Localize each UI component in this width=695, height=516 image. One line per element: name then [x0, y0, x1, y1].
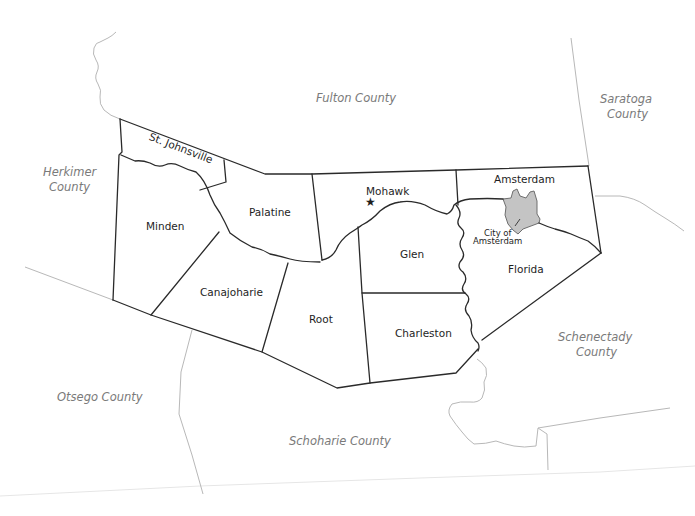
town-label-root: Root [309, 313, 333, 325]
minden-canajoharie-border [151, 232, 219, 315]
county-label-schenectady-1: Schenectady [558, 330, 633, 344]
county-label-schoharie: Schoharie County [289, 434, 391, 448]
schoharie-schenectady-border [449, 359, 548, 470]
fulton-saratoga-border [571, 38, 589, 166]
town-borders [113, 119, 601, 388]
star-icon: ★ [365, 195, 376, 209]
town-label-charleston: Charleston [395, 327, 452, 339]
county-label-schenectady-2: County [576, 345, 617, 359]
town-label-glen: Glen [400, 248, 424, 260]
herkimer-otsego-border [25, 267, 113, 300]
county-labels: Fulton County Saratoga County Herkimer C… [43, 91, 652, 448]
east-border [588, 166, 601, 253]
county-label-otsego: Otsego County [57, 390, 143, 404]
fulton-herkimer-border [93, 32, 120, 119]
schenectady-southeast-border [538, 408, 670, 428]
county-label-fulton: Fulton County [316, 91, 396, 105]
county-label-saratoga-2: County [607, 107, 648, 121]
schoharie-creek [456, 205, 479, 351]
town-label-palatine: Palatine [249, 206, 291, 218]
saratoga-schenectady-border [595, 196, 684, 231]
town-label-st-johnsville: St. Johnsville [148, 130, 215, 165]
town-label-minden: Minden [146, 220, 184, 232]
county-label-herkimer-1: Herkimer [43, 165, 98, 179]
canajoharie-root-border [262, 263, 288, 352]
otsego-schoharie-border [179, 330, 203, 494]
south-border [113, 300, 478, 388]
palatine-mohawk-border [312, 174, 322, 260]
mohawk-amsterdam-border [456, 170, 458, 205]
county-label-saratoga-1: Saratoga [600, 92, 652, 106]
county-map: St. Johnsville Minden Palatine Canajohar… [0, 0, 695, 516]
mohawk-glen-border [358, 227, 370, 383]
county-label-herkimer-2: County [49, 180, 90, 194]
west-border [113, 119, 122, 300]
st-johnsville-palatine-border [200, 160, 226, 190]
town-label-canajoharie: Canajoharie [200, 286, 263, 298]
mohawk-river-east-2 [539, 223, 601, 253]
town-label-florida: Florida [508, 263, 544, 275]
city-label-line2: Amsterdam [473, 236, 522, 246]
town-label-amsterdam: Amsterdam [494, 173, 555, 185]
faint-background-borders [0, 466, 695, 496]
